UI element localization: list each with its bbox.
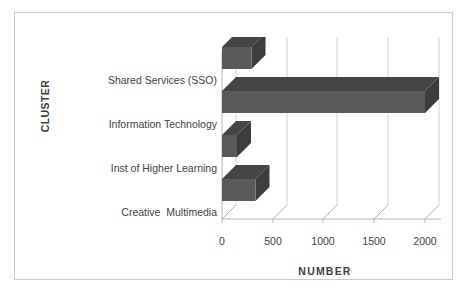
- axis-depth-connectors: [222, 205, 439, 219]
- x-axis-title: NUMBER: [205, 265, 445, 277]
- x-tick-marks: [222, 219, 425, 223]
- bar-front-face: [222, 135, 237, 157]
- bar-shared-services[interactable]: [222, 37, 266, 69]
- x-tick-label-2000: 2000: [403, 235, 447, 247]
- category-label-information-technology: Information Technology: [67, 118, 217, 130]
- depth-connector-1000: [323, 205, 337, 219]
- depth-connector-0: [222, 205, 236, 219]
- x-axis-tick-labels: 0 500 1000 1500 2000: [205, 235, 445, 253]
- plot-area: [205, 37, 455, 237]
- category-label-shared-services: Shared Services (SSO): [67, 74, 217, 86]
- bar-creative-multimedia[interactable]: [222, 165, 270, 201]
- x-tick-label-1500: 1500: [352, 235, 396, 247]
- x-tick-label-0: 0: [200, 235, 244, 247]
- depth-connector-500: [273, 205, 287, 219]
- category-label-inst-of-higher-learning: Inst of Higher Learning: [67, 162, 217, 174]
- bar-information-technology[interactable]: [222, 77, 439, 113]
- category-axis-labels: Shared Services (SSO) Information Techno…: [67, 43, 217, 219]
- bar-front-face: [222, 47, 252, 69]
- bar-inst-of-higher-learning[interactable]: [222, 121, 251, 157]
- depth-connector-1500: [374, 205, 388, 219]
- category-label-creative-multimedia: Creative Multimedia: [67, 206, 217, 218]
- chart-figure: CLUSTER Shared Services (SSO) Informatio…: [0, 0, 468, 305]
- x-tick-label-500: 500: [251, 235, 295, 247]
- bar-top-face: [222, 77, 439, 91]
- chart-frame: CLUSTER Shared Services (SSO) Informatio…: [14, 12, 453, 280]
- bar-front-face: [222, 179, 256, 201]
- x-tick-label-1000: 1000: [301, 235, 345, 247]
- depth-connector-2000: [425, 205, 439, 219]
- bar-front-face: [222, 91, 425, 113]
- y-axis-title: CLUSTER: [39, 61, 59, 151]
